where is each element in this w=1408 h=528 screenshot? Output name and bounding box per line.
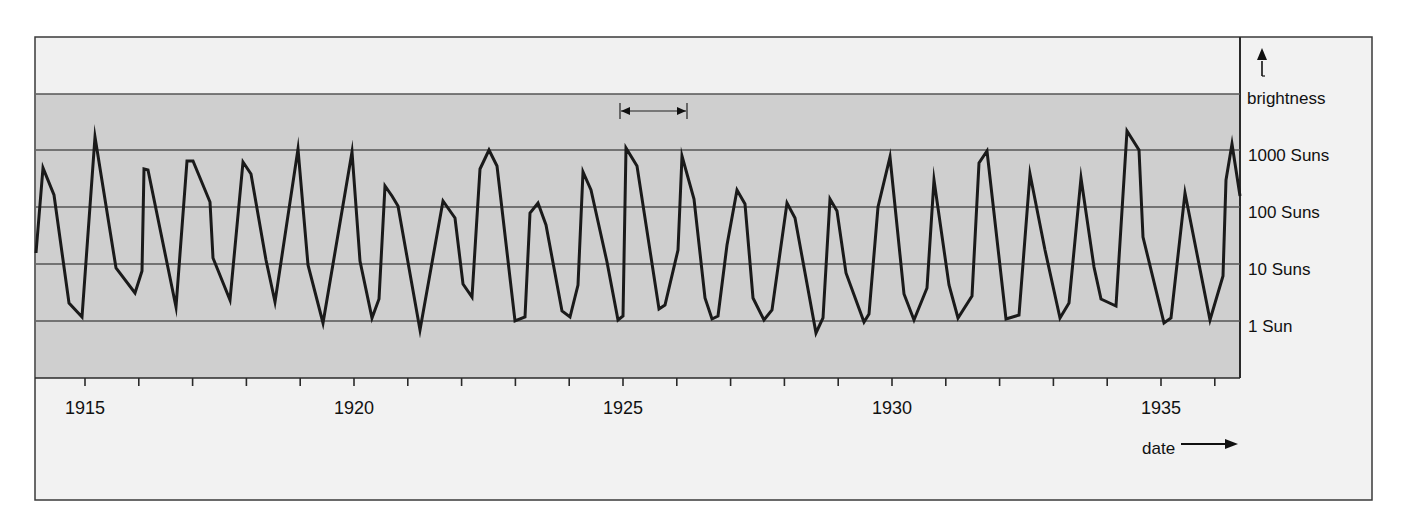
- chart-container: 19151920192519301935 1000 Suns100 Suns10…: [0, 0, 1408, 528]
- y-tick-label: 100 Suns: [1248, 203, 1320, 222]
- x-axis-label: date: [1142, 439, 1175, 458]
- x-tick-label: 1935: [1141, 398, 1181, 418]
- brightness-chart: 19151920192519301935 1000 Suns100 Suns10…: [0, 0, 1408, 528]
- plot-upper-band: [36, 38, 1240, 94]
- x-tick-label: 1930: [872, 398, 912, 418]
- y-tick-label: 1000 Suns: [1248, 146, 1329, 165]
- plot-area: [36, 94, 1240, 378]
- x-tick-label: 1925: [603, 398, 643, 418]
- x-tick-label: 1915: [65, 398, 105, 418]
- y-tick-label: 1 Sun: [1248, 317, 1292, 336]
- y-axis-label: brightness: [1247, 89, 1325, 108]
- y-tick-label: 10 Suns: [1248, 260, 1310, 279]
- x-tick-label: 1920: [334, 398, 374, 418]
